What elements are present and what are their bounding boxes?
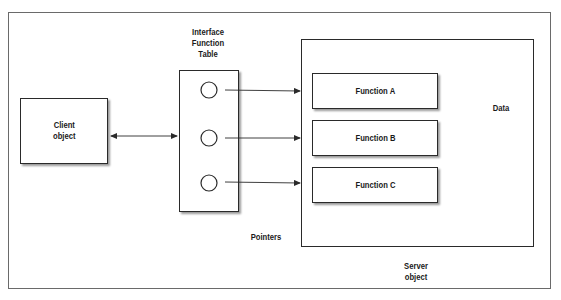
pointer-c-icon [201,175,217,191]
pointer-a-icon [201,82,217,98]
pointer-c-arrow [225,182,300,183]
pointer-b-icon [201,130,217,146]
pointer-a-arrow [225,90,300,91]
connector-layer [0,0,561,300]
